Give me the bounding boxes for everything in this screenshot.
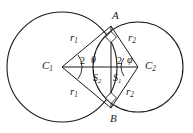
radius-label-r1-upper: r1 [70, 32, 78, 45]
region-label-s2-sub: 2 [98, 77, 101, 84]
region-label-s1-sub: 1 [118, 77, 121, 84]
point-label-c1: C1 [42, 60, 53, 73]
region-label-s2: S2 [93, 73, 101, 84]
radius-label-r1-lower-sub: 1 [74, 91, 78, 99]
radius-label-r2-lower: r2 [126, 86, 134, 99]
geometry-figure: A B C1 C2 r1 r1 r2 r2 2 θ 2 φ S2 S1 [0, 0, 193, 133]
region-label-s1: S1 [113, 73, 121, 84]
radius-label-r1-lower: r1 [70, 86, 78, 99]
radius-label-r2-upper: r2 [128, 32, 136, 45]
point-label-a: A [112, 10, 119, 21]
angle-coefficient-c1: 2 [80, 56, 85, 66]
angle-symbol-theta: θ [91, 55, 96, 65]
point-label-c2-sub: 2 [152, 65, 156, 73]
point-label-c2: C2 [145, 60, 156, 73]
radius-label-r2-lower-sub: 2 [130, 91, 134, 99]
figure-canvas [0, 0, 193, 133]
angle-coefficient-c2: 2 [117, 56, 122, 66]
radius-label-r2-upper-sub: 2 [132, 37, 136, 45]
point-label-b: B [110, 113, 117, 124]
point-label-c1-sub: 1 [49, 65, 53, 73]
angle-symbol-phi: φ [127, 55, 133, 65]
radius-label-r1-upper-sub: 1 [74, 37, 78, 45]
right-angle-marker-a [106, 32, 117, 43]
